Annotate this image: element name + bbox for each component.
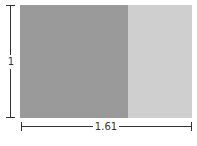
width-dimension-cap-right [191, 122, 192, 131]
caption [40, 139, 150, 146]
width-label: 1.61 [93, 120, 119, 133]
height-dimension-cap-bottom [6, 117, 15, 118]
golden-rectangle-remainder-part [128, 5, 192, 118]
width-dimension-cap-left [21, 122, 22, 131]
golden-rectangle-square-part [20, 5, 128, 118]
height-dimension-cap-top [6, 5, 15, 6]
height-label: 1 [5, 55, 17, 69]
